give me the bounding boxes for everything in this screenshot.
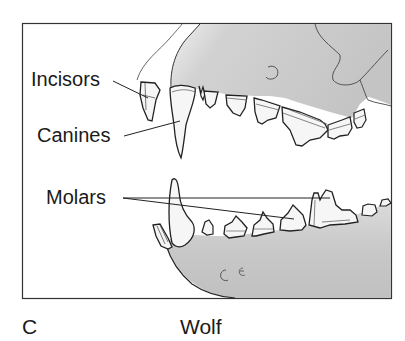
canines-label: Canines: [37, 125, 110, 145]
panel-letter: C: [22, 316, 37, 337]
molars-label: Molars: [46, 187, 106, 207]
incisors-label: Incisors: [31, 69, 100, 89]
skull-illustration: [0, 0, 405, 341]
wolf-teeth-diagram: Incisors Canines Molars C Wolf: [0, 0, 405, 341]
species-caption: Wolf: [180, 316, 222, 337]
